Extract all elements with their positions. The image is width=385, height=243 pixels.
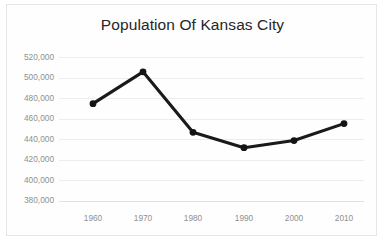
ytick-label: 480,000 <box>24 93 54 103</box>
ytick-label: 400,000 <box>24 175 54 185</box>
ytick-label: 500,000 <box>24 72 54 82</box>
data-point-marker <box>190 129 197 136</box>
xtick-label: 2010 <box>335 213 354 223</box>
series-line-population <box>93 72 344 148</box>
y-axis-tick-labels: 520,000 500,000 480,000 460,000 440,000 … <box>24 52 54 206</box>
ytick-label: 420,000 <box>24 154 54 164</box>
data-point-marker <box>90 100 97 107</box>
data-point-marker <box>241 144 248 151</box>
data-point-marker <box>341 120 348 127</box>
xtick-label: 1970 <box>134 213 153 223</box>
chart-card: Population Of Kansas City 520,000 500,00… <box>6 4 377 236</box>
xtick-label: 1990 <box>235 213 254 223</box>
xtick-label: 1980 <box>184 213 203 223</box>
ytick-label: 460,000 <box>24 113 54 123</box>
line-chart-plot: 520,000 500,000 480,000 460,000 440,000 … <box>7 5 378 237</box>
gridlines <box>59 58 364 202</box>
data-point-marker <box>140 68 147 75</box>
data-point-marker <box>291 137 298 144</box>
x-axis-tick-labels: 1960 1970 1980 1990 2000 2010 <box>84 213 354 223</box>
xtick-label: 2000 <box>285 213 304 223</box>
ytick-label: 380,000 <box>24 195 54 205</box>
ytick-label: 520,000 <box>24 52 54 62</box>
ytick-label: 440,000 <box>24 134 54 144</box>
xtick-label: 1960 <box>84 213 103 223</box>
